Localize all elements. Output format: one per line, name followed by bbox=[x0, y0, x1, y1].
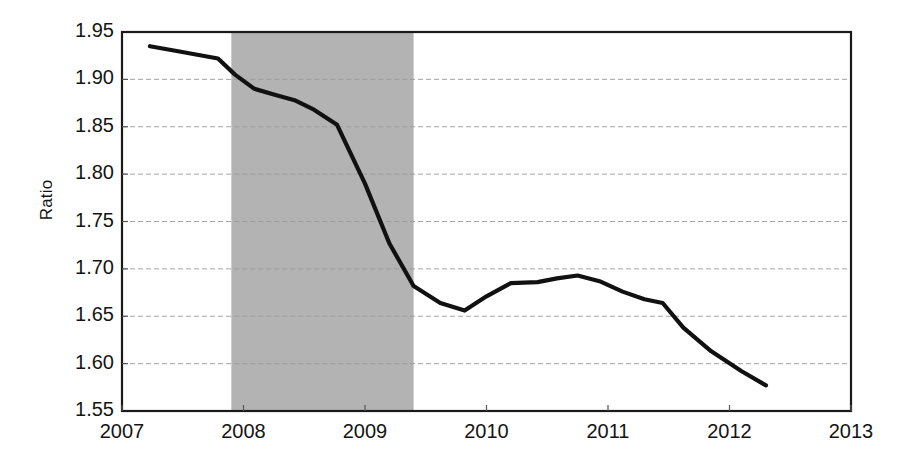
x-tick-label: 2013 bbox=[811, 420, 891, 443]
x-tick-label: 2010 bbox=[447, 420, 527, 443]
x-tick-label: 2008 bbox=[204, 420, 284, 443]
x-tick-label: 2007 bbox=[82, 420, 162, 443]
x-tick-label: 2009 bbox=[325, 420, 405, 443]
chart-container: Ratio 1.551.601.651.701.751.801.851.901.… bbox=[0, 0, 900, 471]
x-tick-label: 2011 bbox=[568, 420, 648, 443]
x-axis-tick-labels: 2007200820092010201120122013 bbox=[0, 0, 900, 471]
x-tick-label: 2012 bbox=[690, 420, 770, 443]
